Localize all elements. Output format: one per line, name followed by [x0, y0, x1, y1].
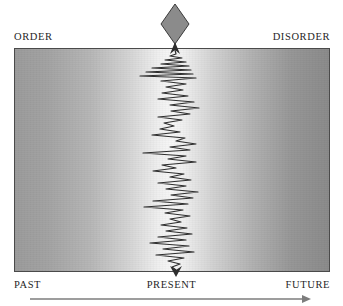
- label-order: ORDER: [14, 32, 53, 43]
- label-disorder: DISORDER: [273, 32, 330, 43]
- diamond-marker-icon: [161, 4, 189, 44]
- figure-canvas: ORDER DISORDER PAST PRESENT FUTURE: [0, 0, 343, 306]
- field-texture-overlay: [15, 49, 329, 271]
- time-arrow-head-icon: [302, 295, 311, 303]
- time-arrow: [30, 295, 311, 303]
- order-disorder-field: [14, 48, 330, 272]
- label-future: FUTURE: [286, 280, 330, 291]
